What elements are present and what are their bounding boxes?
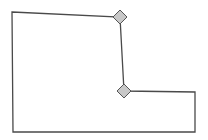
shape-canvas [0, 0, 208, 140]
shape-outline[interactable] [12, 12, 195, 132]
vertex-handle-top-diamond-icon[interactable] [113, 10, 127, 24]
vertex-handle-middle-diamond-icon[interactable] [117, 84, 131, 98]
